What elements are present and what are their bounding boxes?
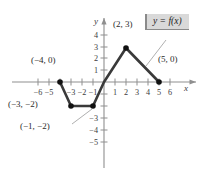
point-label-5-0: (5, 0)	[158, 54, 178, 64]
y-tick-label-1: 1	[94, 66, 98, 75]
point-label-neg3-neg2: (−3, −2)	[8, 99, 38, 109]
x-axis-label: x	[183, 83, 188, 93]
marker-neg4-0	[57, 79, 63, 85]
marker-neg3-neg2	[68, 103, 74, 109]
x-tick-label-3: 3	[135, 88, 139, 97]
x-tick-label-neg6: −6	[34, 88, 43, 97]
function-curve	[60, 48, 159, 106]
data-point-markers	[57, 45, 162, 109]
y-tick-label-neg3: −3	[89, 114, 98, 123]
x-tick-label-neg3: −3	[67, 88, 76, 97]
x-tick-label-neg1: −1	[89, 88, 98, 97]
x-tick-label-2: 2	[124, 88, 128, 97]
y-tick-label-neg4: −4	[89, 126, 98, 135]
function-callout-label: y = f(x)	[145, 14, 189, 30]
x-tick-label-4: 4	[146, 88, 150, 97]
y-axis-label: y	[93, 16, 98, 26]
y-tick-label-2: 2	[94, 54, 98, 63]
x-tick-label-neg5: −5	[45, 88, 54, 97]
x-tick-label-5: 5	[157, 88, 161, 97]
y-tick-label-neg5: −5	[89, 138, 98, 147]
y-tick-label-4: 4	[94, 31, 98, 40]
x-tick-label-neg2: −2	[78, 88, 87, 97]
point-label-neg4-0: (−4, 0)	[31, 55, 56, 65]
y-axis-arrow	[101, 18, 106, 25]
x-tick-labels: −6 −5 −3 −2 −1 1 2 3 4 5 6	[34, 88, 172, 97]
point-label-2-3: (2, 3)	[113, 19, 133, 29]
x-tick-label-1: 1	[113, 88, 117, 97]
function-graph-figure: −6 −5 −3 −2 −1 1 2 3 4 5 6 4 3 2 1 −3 −4…	[0, 0, 208, 177]
marker-5-0	[156, 79, 162, 85]
x-tick-label-6: 6	[168, 88, 172, 97]
marker-2-3	[123, 45, 129, 51]
point-label-neg1-neg2: (−1, −2)	[20, 121, 50, 131]
marker-neg1-neg2	[90, 103, 96, 109]
y-tick-label-3: 3	[94, 43, 98, 52]
x-axis-arrow	[190, 79, 197, 84]
